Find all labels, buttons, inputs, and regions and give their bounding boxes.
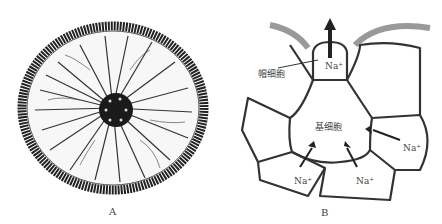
panel-b: Na⁺ 帽细胞 基细胞 Na⁺ Na⁺ Na⁺ B xyxy=(220,0,442,224)
na-ion-label-top: Na⁺ xyxy=(325,61,343,71)
na-ion-label-bottom-right: Na⁺ xyxy=(356,176,374,186)
basal-cell-label: 基细胞 xyxy=(315,120,342,133)
cap-cell-label: 帽细胞 xyxy=(258,67,285,80)
salt-gland-diagram xyxy=(220,0,442,224)
na-ion-label-bottom-left: Na⁺ xyxy=(294,176,312,186)
efflux-arrow-icon xyxy=(324,18,336,30)
arrow-icon xyxy=(308,141,316,148)
panel-b-letter: B xyxy=(321,207,328,218)
arrow-icon xyxy=(344,141,351,148)
na-ion-label-right: Na⁺ xyxy=(403,143,421,153)
stem-cross-section-illustration xyxy=(0,0,220,224)
panel-a: A xyxy=(0,0,220,224)
panel-a-letter: A xyxy=(109,206,116,217)
